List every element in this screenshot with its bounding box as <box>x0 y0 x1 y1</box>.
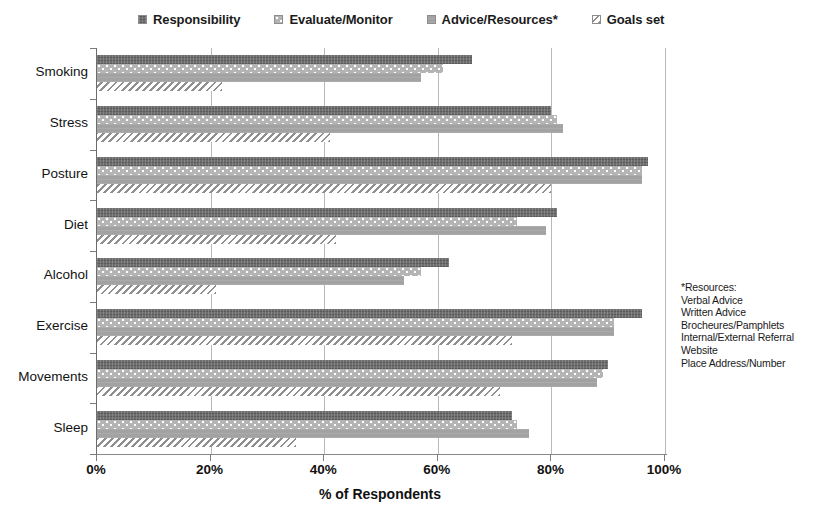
bar-smoking-responsibility <box>97 55 472 64</box>
y-axis-ticks <box>0 48 96 455</box>
legend-label-goals-set: Goals set <box>607 12 665 27</box>
x-axis-tick <box>664 454 665 461</box>
bar-posture-goals-set <box>97 184 551 193</box>
resources-footnote-item: Brocheures/Pamphlets <box>681 319 823 332</box>
legend-item-goals-set: Goals set <box>592 12 665 27</box>
chart-plot-area <box>96 48 665 454</box>
bar-group-sleep <box>97 403 665 454</box>
bar-movements-advice-resources <box>97 378 597 387</box>
bar-diet-goals-set <box>97 235 336 244</box>
bar-group-alcohol <box>97 251 665 302</box>
chart-legend: Responsibility Evaluate/Monitor Advice/R… <box>138 8 698 30</box>
bar-stress-advice-resources <box>97 124 563 133</box>
x-axis-tick <box>96 454 97 461</box>
resources-footnote-item: Internal/External Referral <box>681 331 823 344</box>
resources-footnote: *Resources: Verbal AdviceWritten AdviceB… <box>681 281 823 369</box>
bar-group-stress <box>97 99 665 150</box>
bar-stress-goals-set <box>97 133 330 142</box>
bar-smoking-advice-resources <box>97 73 421 82</box>
legend-swatch-goals-set-icon <box>592 15 601 24</box>
resources-footnote-item: Verbal Advice <box>681 294 823 307</box>
bar-posture-advice-resources <box>97 175 642 184</box>
x-axis-label-20pct: 20% <box>180 462 240 477</box>
bar-alcohol-advice-resources <box>97 276 404 285</box>
bar-stress-responsibility <box>97 106 551 115</box>
x-axis-label-100pct: 100% <box>634 462 694 477</box>
bar-diet-responsibility <box>97 208 557 217</box>
x-axis-tick-labels: 0%20%40%60%80%100% <box>0 462 760 482</box>
legend-swatch-evaluate-monitor-icon <box>274 15 283 24</box>
x-axis-ticks <box>96 454 666 462</box>
bar-movements-evaluate-monitor <box>97 369 603 378</box>
bar-posture-responsibility <box>97 157 648 166</box>
bar-group-movements <box>97 353 665 404</box>
bar-sleep-responsibility <box>97 411 512 420</box>
bar-group-posture <box>97 150 665 201</box>
legend-item-responsibility: Responsibility <box>138 12 240 27</box>
bar-smoking-evaluate-monitor <box>97 64 443 73</box>
x-axis-tick <box>437 454 438 461</box>
bar-sleep-goals-set <box>97 438 296 447</box>
bar-movements-responsibility <box>97 360 608 369</box>
bar-exercise-responsibility <box>97 309 642 318</box>
bar-stress-evaluate-monitor <box>97 115 557 124</box>
legend-label-evaluate-monitor: Evaluate/Monitor <box>289 12 392 27</box>
bar-diet-evaluate-monitor <box>97 217 517 226</box>
x-axis-label-0pct: 0% <box>66 462 126 477</box>
legend-item-evaluate-monitor: Evaluate/Monitor <box>274 12 392 27</box>
resources-footnote-item: Written Advice <box>681 306 823 319</box>
legend-swatch-advice-resources-icon <box>427 15 436 24</box>
x-axis-tick <box>210 454 211 461</box>
bar-movements-goals-set <box>97 387 500 396</box>
bar-group-exercise <box>97 302 665 353</box>
bar-sleep-advice-resources <box>97 429 529 438</box>
legend-label-responsibility: Responsibility <box>153 12 240 27</box>
gridline-100pct <box>665 48 666 454</box>
legend-swatch-responsibility-icon <box>138 15 147 24</box>
x-axis-label-80pct: 80% <box>520 462 580 477</box>
bar-alcohol-goals-set <box>97 285 216 294</box>
legend-item-advice-resources: Advice/Resources* <box>427 12 558 27</box>
x-axis-tick <box>323 454 324 461</box>
bar-smoking-goals-set <box>97 82 222 91</box>
resources-footnote-item: Website <box>681 344 823 357</box>
bar-alcohol-evaluate-monitor <box>97 267 421 276</box>
bar-exercise-evaluate-monitor <box>97 318 614 327</box>
bar-diet-advice-resources <box>97 226 546 235</box>
x-axis-label-60pct: 60% <box>407 462 467 477</box>
legend-label-advice-resources: Advice/Resources* <box>442 12 558 27</box>
bar-exercise-goals-set <box>97 336 512 345</box>
x-axis-label-40pct: 40% <box>293 462 353 477</box>
bar-posture-evaluate-monitor <box>97 166 642 175</box>
resources-footnote-item: Place Address/Number <box>681 357 823 370</box>
bar-alcohol-responsibility <box>97 258 449 267</box>
x-axis-tick <box>550 454 551 461</box>
bar-group-diet <box>97 200 665 251</box>
x-axis-title: % of Respondents <box>96 486 664 502</box>
bar-group-smoking <box>97 48 665 99</box>
resources-footnote-title: *Resources: <box>681 281 823 294</box>
bar-exercise-advice-resources <box>97 327 614 336</box>
bar-sleep-evaluate-monitor <box>97 420 517 429</box>
